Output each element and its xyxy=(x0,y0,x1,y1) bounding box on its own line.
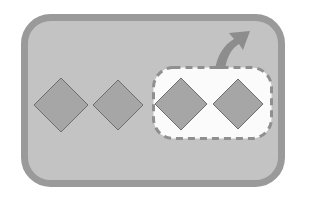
diagram-svg xyxy=(0,0,313,207)
diagram-canvas xyxy=(0,0,313,207)
